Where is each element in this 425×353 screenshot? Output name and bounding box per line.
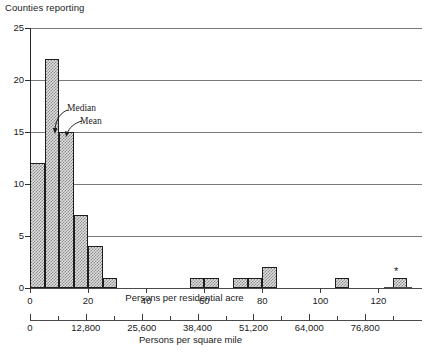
x2-tick-mark-25600: [142, 314, 143, 320]
x2-tick-mark-51200: [253, 314, 254, 320]
x2-tick-mark-0: [30, 314, 31, 320]
gridline-5: [30, 236, 422, 237]
annotation-arrows-icon: [52, 108, 100, 138]
bar-80-85: [262, 267, 277, 288]
bar-10-15: [59, 132, 74, 288]
y-axis-title: Counties reporting: [5, 2, 84, 13]
x2-tick-mark-minor-2: [170, 316, 171, 320]
y-tick-label-15: 15: [0, 126, 24, 137]
x2-tick-mark-64000: [309, 314, 310, 320]
x2-tick-mark-12800: [86, 314, 87, 320]
bar-20-25: [88, 246, 103, 288]
gridline-20: [30, 80, 422, 81]
x2-tick-mark-minor-0: [58, 316, 59, 320]
bar-105-110: [335, 278, 350, 288]
x2-tick-mark-76800: [365, 314, 366, 320]
x2-tick-label-25600: 25,600: [119, 322, 165, 333]
x2-tick-mark-minor-1: [114, 316, 115, 320]
bar-5-10: [45, 59, 60, 288]
x2-tick-label-12800: 12,800: [63, 322, 109, 333]
x-axis-title-secondary-text: Persons per square mile: [139, 334, 242, 345]
x2-tick-mark-38400: [198, 314, 199, 320]
y-tick-label-20: 20: [0, 74, 24, 85]
bar-75-80: [248, 278, 263, 288]
y-tick-label-5: 5: [0, 230, 24, 241]
bar-55-60: [190, 278, 205, 288]
x2-tick-mark-minor-end: [393, 316, 394, 320]
x2-tick-mark-minor-3: [226, 316, 227, 320]
bar-15-20: [74, 215, 89, 288]
x-axis-title-secondary: Persons per square mile: [0, 334, 425, 345]
x2-tick-mark-minor-5: [337, 316, 338, 320]
bar-0-5: [30, 163, 45, 288]
bar-25-30: [103, 278, 118, 288]
x2-tick-mark-minor-4: [281, 316, 282, 320]
x2-tick-label-51200: 51,200: [230, 322, 276, 333]
histogram-chart: Counties reporting 0510152025 0204060801…: [0, 0, 425, 353]
outlier-axis-segment: [384, 287, 412, 288]
x-axis-title-primary: Persons per residential acre: [0, 292, 425, 303]
x2-tick-label-0: 0: [7, 322, 53, 333]
x2-tick-label-76800: 76,800: [342, 322, 388, 333]
x-axis-title-primary-text: Persons per residential acre: [125, 292, 243, 303]
outlier-asterisk-marker: *: [394, 266, 398, 277]
gridline-10: [30, 184, 422, 185]
bar-70-75: [233, 278, 248, 288]
y-tick-label-25: 25: [0, 22, 24, 33]
gridline-25: [30, 28, 422, 29]
y-tick-label-10: 10: [0, 178, 24, 189]
x2-tick-label-38400: 38,400: [175, 322, 221, 333]
bar-60-65: [204, 278, 219, 288]
x2-tick-label-64000: 64,000: [286, 322, 332, 333]
